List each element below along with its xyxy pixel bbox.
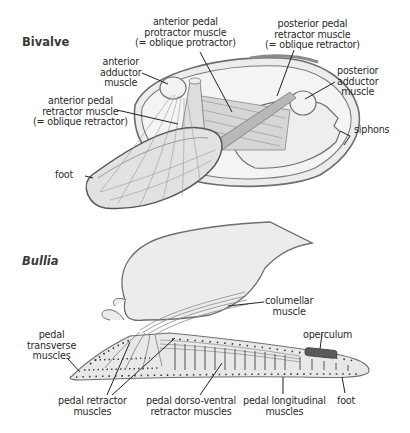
anterior-adductor-shape (160, 77, 186, 99)
label-pedal-longitudinal-muscles: pedal longitudinal muscles (243, 396, 326, 417)
label-operculum: operculum (303, 330, 352, 341)
bivalve-foot (86, 127, 222, 208)
label-siphons: siphons (354, 125, 389, 136)
label-columellar-muscle: columellar muscle (265, 296, 313, 317)
label-anterior-adductor: anterior adductor muscle (100, 57, 141, 89)
label-pedal-transverse-muscles: pedal transverse muscles (27, 330, 76, 362)
label-anterior-pedal-retractor: anterior pedal retractor muscle (= obliq… (33, 96, 128, 128)
label-bullia-foot: foot (337, 396, 355, 407)
label-pedal-dorso-ventral-retractor: pedal dorso-ventral retractor muscles (146, 396, 236, 417)
label-anterior-pedal-protractor: anterior pedal protractor muscle (= obli… (135, 17, 236, 49)
label-posterior-pedal-retractor: posterior pedal retractor muscle (= obli… (265, 19, 360, 51)
bullia-title: Bullia (22, 254, 59, 268)
label-pedal-retractor-muscles: pedal retractor muscles (58, 396, 127, 417)
label-bivalve-foot: foot (55, 170, 73, 181)
bivalve-title: Bivalve (22, 35, 69, 49)
label-posterior-adductor: posterior adductor muscle (337, 66, 378, 98)
bullia-drawing (70, 222, 369, 380)
